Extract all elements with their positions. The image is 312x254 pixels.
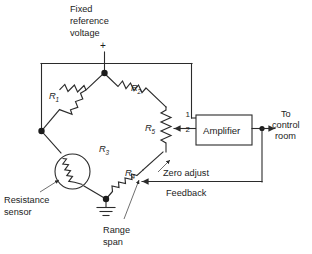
source-label-line1: Fixed xyxy=(70,4,92,14)
r1-resistor xyxy=(60,84,87,92)
r5-subscript: 5 xyxy=(152,128,156,135)
r1-arm-lower-wire xyxy=(42,110,60,131)
r2-arm-lower-wire xyxy=(146,88,166,107)
source-label-line3: voltage xyxy=(70,28,100,38)
r3-arm-lower-wire xyxy=(84,186,106,199)
output-label-line2: control xyxy=(272,120,300,130)
r4-subscript: 4 xyxy=(132,173,136,180)
range-span-leader xyxy=(124,180,139,219)
r1-arm-upper-wire xyxy=(86,73,104,90)
bridge-top-node xyxy=(101,70,107,76)
bridge-bottom-node xyxy=(103,196,109,202)
r1-resistor-zig xyxy=(60,90,87,114)
amplifier-terminal-1-label: 1 xyxy=(186,110,191,119)
amplifier-terminal-2-label: 2 xyxy=(186,125,191,134)
feedback-label: Feedback xyxy=(166,188,207,198)
zero-adjust-label: Zero adjust xyxy=(163,168,209,178)
range-span-label-line1: Range xyxy=(103,225,130,235)
r1-subscript: 1 xyxy=(56,96,60,103)
source-polarity-label: + xyxy=(100,40,106,51)
circuit-diagram-svg: Fixed reference voltage + R 1 R 2 xyxy=(0,0,312,254)
source-label-line2: reference xyxy=(70,16,109,26)
resistance-sensor-label-line2: sensor xyxy=(4,207,32,217)
resistance-sensor-icon xyxy=(55,154,90,189)
amplifier-label: Amplifier xyxy=(203,125,241,136)
output-label-line1: To xyxy=(281,109,291,119)
r3-arm-upper-wire xyxy=(42,131,62,153)
output-label-line3: room xyxy=(275,131,296,141)
resistance-sensor-label-line1: Resistance xyxy=(4,195,49,205)
r2-subscript: 2 xyxy=(137,88,142,95)
r4-r5-link-wire xyxy=(143,152,163,170)
range-span-label-line2: span xyxy=(103,237,123,247)
bridge-left-node xyxy=(38,128,44,134)
circuit-diagram-canvas: Fixed reference voltage + R 1 R 2 xyxy=(0,0,312,254)
resistance-sensor-leader xyxy=(40,180,59,192)
r4-arm-upper-wire xyxy=(137,170,143,176)
r3-subscript: 3 xyxy=(106,149,110,156)
r5-resistor xyxy=(161,110,171,143)
